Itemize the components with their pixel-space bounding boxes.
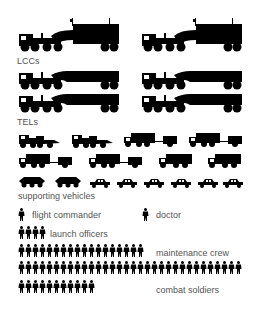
- person-icon: [67, 280, 74, 293]
- person-icon: [18, 280, 25, 293]
- support-vehicle: [188, 133, 244, 147]
- support-vehicle: [18, 154, 74, 168]
- person-icon: [67, 244, 74, 257]
- tel-vehicle-2: [140, 70, 244, 90]
- launcher-truck-icon: [140, 93, 244, 113]
- person-icon: [32, 244, 39, 257]
- person-icon: [130, 244, 137, 257]
- person-icon: [25, 280, 32, 293]
- flight-commander-label: flight commander: [32, 210, 101, 220]
- person-icon: [60, 280, 67, 293]
- support-vehicle: [143, 178, 165, 188]
- command-truck-icon: [140, 18, 244, 52]
- person-icon: [18, 244, 25, 257]
- person-icon: [144, 261, 151, 274]
- launch-officers-row: [18, 226, 46, 239]
- support-vehicle: [123, 133, 179, 147]
- support-vehicle: [197, 178, 219, 188]
- person-icon: [179, 261, 186, 274]
- person-icon: [74, 280, 81, 293]
- person-icon: [25, 226, 32, 239]
- truck-with-trailer-icon: [123, 133, 179, 147]
- person-icon: [60, 261, 67, 274]
- person-icon: [130, 261, 137, 274]
- person-icon: [46, 261, 53, 274]
- person-icon: [116, 261, 123, 274]
- person-icon: [186, 261, 193, 274]
- truck-icon: [158, 154, 194, 168]
- support-vehicle: [18, 176, 46, 188]
- command-truck-icon: [17, 18, 121, 52]
- person-icon: [102, 261, 109, 274]
- person-icon: [235, 261, 242, 274]
- person-icon: [18, 226, 25, 239]
- person-icon: [158, 261, 165, 274]
- maintenance-crew-row-1: [18, 244, 144, 257]
- person-icon: [137, 244, 144, 257]
- person-icon: [18, 208, 25, 221]
- tel-vehicle-3: [17, 93, 121, 113]
- truck-icon: [207, 154, 243, 168]
- person-icon: [88, 261, 95, 274]
- person-icon: [228, 261, 235, 274]
- combat-soldiers-label: combat soldiers: [156, 285, 219, 295]
- person-icon: [32, 261, 39, 274]
- car-icon: [116, 178, 138, 188]
- person-icon: [95, 261, 102, 274]
- person-icon: [95, 244, 102, 257]
- person-icon: [81, 244, 88, 257]
- maintenance-crew-label: maintenance crew: [156, 248, 229, 258]
- person-icon: [221, 261, 228, 274]
- apc-icon: [54, 176, 82, 188]
- person-icon: [214, 261, 221, 274]
- truck-with-trailer-icon: [188, 133, 244, 147]
- doctor-figure: [142, 207, 149, 225]
- apc-icon: [18, 176, 46, 188]
- tels-label: TELs: [17, 117, 38, 127]
- person-icon: [207, 261, 214, 274]
- lcc-vehicle-2: [140, 18, 244, 52]
- support-vehicle: [88, 154, 144, 168]
- car-icon: [170, 178, 192, 188]
- lcc-vehicle-1: [17, 18, 121, 52]
- person-icon: [172, 261, 179, 274]
- person-icon: [53, 261, 60, 274]
- truck-with-trailer-icon: [88, 154, 144, 168]
- person-icon: [18, 261, 25, 274]
- person-icon: [88, 244, 95, 257]
- person-icon: [123, 244, 130, 257]
- person-icon: [25, 261, 32, 274]
- car-icon: [222, 178, 244, 188]
- person-icon: [25, 244, 32, 257]
- lccs-label: LCCs: [17, 56, 40, 66]
- person-icon: [39, 280, 46, 293]
- person-icon: [200, 261, 207, 274]
- person-icon: [39, 226, 46, 239]
- tel-vehicle-1: [17, 70, 121, 90]
- person-icon: [193, 261, 200, 274]
- supporting-vehicles-label: supporting vehicles: [18, 191, 95, 201]
- person-icon: [116, 244, 123, 257]
- person-icon: [46, 244, 53, 257]
- support-vehicle: [170, 178, 192, 188]
- support-vehicle: [158, 154, 194, 168]
- support-vehicle: [18, 134, 62, 148]
- person-icon: [74, 261, 81, 274]
- car-icon: [197, 178, 219, 188]
- car-icon: [143, 178, 165, 188]
- car-icon: [89, 178, 111, 188]
- person-icon: [81, 261, 88, 274]
- support-vehicle: [71, 134, 115, 148]
- person-icon: [39, 261, 46, 274]
- person-icon: [109, 244, 116, 257]
- person-icon: [53, 280, 60, 293]
- launcher-truck-icon: [17, 93, 121, 113]
- launcher-truck-icon: [140, 70, 244, 90]
- person-icon: [142, 208, 149, 221]
- combat-soldiers-row: [18, 280, 95, 293]
- person-icon: [109, 261, 116, 274]
- support-vehicle: [54, 176, 82, 188]
- tel-vehicle-4: [140, 93, 244, 113]
- person-icon: [32, 280, 39, 293]
- person-icon: [53, 244, 60, 257]
